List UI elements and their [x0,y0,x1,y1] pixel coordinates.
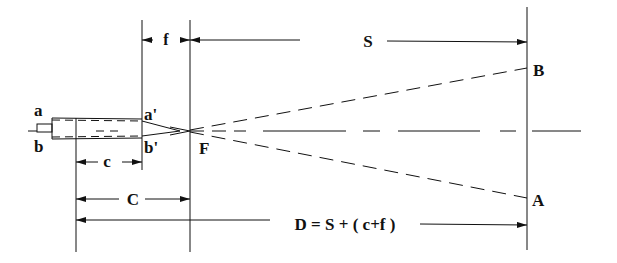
lens-tube [37,118,142,139]
diverging-rays [190,68,527,198]
label-f: f [163,31,169,48]
label-B: B [533,61,544,80]
label-F: F [199,139,209,158]
ray-to-B [190,68,527,130]
dim-S [190,40,527,42]
projection-diagram: f S c C D = S + ( c+f ) a b a' b' F B A [0,0,617,263]
label-a-prime: a' [144,105,157,124]
ray-to-A [190,132,527,198]
label-b-prime: b' [144,138,158,157]
label-C: C [127,190,139,209]
label-A: A [532,191,545,210]
label-S: S [363,32,372,51]
label-D-formula: D = S + ( c+f ) [295,215,396,234]
label-c: c [103,152,111,171]
small-stub [37,124,52,132]
label-a: a [34,101,43,120]
label-b: b [34,137,43,156]
